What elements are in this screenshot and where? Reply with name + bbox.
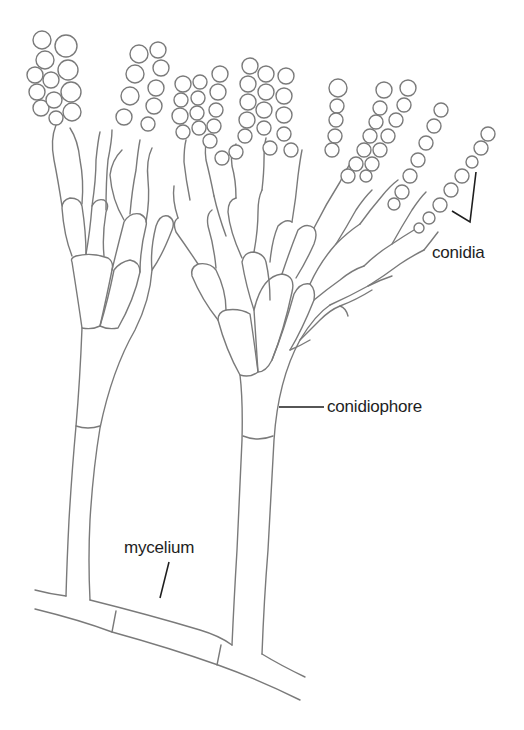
right-conidiophore-stalk <box>232 305 330 654</box>
right-brush <box>174 138 439 376</box>
label-conidiophore: conidiophore <box>327 397 422 417</box>
label-conidia: conidia <box>432 243 484 263</box>
left-brush <box>52 125 173 329</box>
conidia-chains-left <box>27 31 169 131</box>
penicillium-diagram: conidia conidiophore mycelium <box>0 0 524 730</box>
label-leaders <box>160 172 476 598</box>
conidia-chains-right <box>172 58 495 233</box>
mycelium-leader <box>160 562 169 598</box>
label-mycelium: mycelium <box>124 538 194 558</box>
diagram-drawing <box>0 0 524 730</box>
